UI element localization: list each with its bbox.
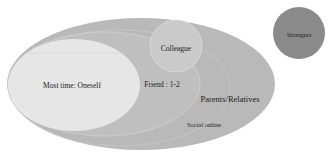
diagram-canvas bbox=[0, 0, 332, 155]
strangers-label: Strangers bbox=[287, 31, 312, 38]
friend-label: Friend : 1-2 bbox=[144, 80, 179, 89]
colleague-label: Colleague bbox=[161, 44, 191, 53]
oneself-label: Most time: Oneself bbox=[43, 81, 101, 90]
parents-label: Parents/Relatives bbox=[200, 94, 259, 104]
social-online-label: Social online bbox=[187, 121, 221, 128]
